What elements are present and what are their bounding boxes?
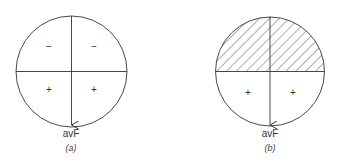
sign-upper-right-a: − (74, 41, 114, 52)
caption-b: (b) (250, 143, 290, 153)
diagram-canvas (0, 0, 340, 166)
axis-label-b: avF (250, 128, 290, 139)
sign-upper-left-a: − (29, 41, 69, 52)
sign-lower-right-b: + (273, 87, 313, 98)
caption-a: (a) (51, 143, 91, 153)
panel-b (216, 17, 325, 126)
sign-lower-left-a: + (29, 84, 69, 95)
sign-lower-right-a: + (74, 84, 114, 95)
sign-lower-left-b: + (228, 87, 268, 98)
axis-label-a: avF (51, 128, 91, 139)
panel-a (16, 16, 127, 127)
